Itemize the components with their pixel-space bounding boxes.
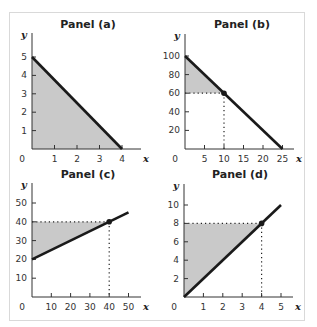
x-tick-label: 20	[65, 302, 77, 312]
x-tick-label: 40	[103, 302, 115, 312]
y-tick-label: 50	[16, 198, 28, 208]
y-axis-label: y	[173, 30, 181, 41]
data-point	[259, 221, 265, 227]
y-tick-label: 20	[16, 254, 28, 264]
x-tick-label: 4	[259, 302, 265, 312]
x-tick-label: 3	[239, 302, 245, 312]
panel-a: Panel (a)1234123450xy	[19, 18, 150, 164]
origin-label: 0	[172, 154, 178, 164]
panel-title: Panel (c)	[61, 168, 116, 181]
y-tick-label: 30	[16, 236, 28, 246]
x-axis-label: x	[295, 153, 303, 164]
x-tick-label: 3	[97, 154, 103, 164]
x-tick-label: 1	[52, 154, 58, 164]
x-tick-label: 2	[220, 302, 226, 312]
data-point	[106, 219, 112, 225]
x-tick-label: 20	[257, 154, 269, 164]
y-tick-label: 2	[173, 274, 179, 284]
x-tick-label: 10	[218, 154, 230, 164]
data-point	[221, 90, 227, 96]
panel-b: Panel (b)510152025204060801000xy	[163, 18, 303, 164]
y-tick-label: 1	[21, 126, 27, 136]
data-line	[185, 56, 283, 149]
x-tick-label: 25	[277, 154, 288, 164]
y-tick-label: 6	[173, 237, 179, 247]
panel-title: Panel (d)	[212, 168, 268, 181]
y-tick-label: 4	[173, 255, 179, 265]
panel-d: Panel (d)123452468100xy	[168, 168, 302, 312]
four-panel-chart: Panel (a)1234123450xyPanel (b)5101520252…	[0, 0, 317, 327]
y-tick-label: 40	[16, 217, 28, 227]
x-axis-label: x	[142, 301, 150, 312]
x-tick-label: 4	[119, 154, 125, 164]
y-tick-label: 3	[21, 89, 27, 99]
origin-label: 0	[19, 302, 25, 312]
y-tick-label: 10	[16, 273, 28, 283]
y-axis-label: y	[20, 29, 28, 40]
y-tick-label: 4	[21, 70, 27, 80]
x-tick-label: 50	[123, 302, 135, 312]
x-tick-label: 2	[74, 154, 80, 164]
x-tick-label: 5	[278, 302, 284, 312]
y-tick-label: 60	[169, 88, 181, 98]
y-axis-label: y	[172, 180, 180, 191]
y-tick-label: 20	[169, 125, 181, 135]
x-axis-label: x	[142, 153, 150, 164]
origin-label: 0	[19, 154, 25, 164]
y-axis-label: y	[20, 179, 28, 190]
x-tick-label: 30	[84, 302, 96, 312]
y-tick-label: 2	[21, 107, 27, 117]
x-tick-label: 15	[238, 154, 249, 164]
y-tick-label: 40	[169, 107, 181, 117]
y-tick-label: 100	[163, 51, 180, 61]
y-tick-label: 8	[173, 218, 179, 228]
panel-title: Panel (b)	[214, 18, 270, 31]
y-tick-label: 10	[168, 200, 180, 210]
origin-label: 0	[171, 302, 177, 312]
x-tick-label: 1	[201, 302, 207, 312]
x-tick-label: 10	[46, 302, 58, 312]
panel-title: Panel (a)	[60, 18, 116, 31]
x-tick-label: 5	[202, 154, 208, 164]
y-tick-label: 5	[21, 52, 27, 62]
x-axis-label: x	[294, 301, 302, 312]
panel-c: Panel (c)102030405010203040500xy	[16, 168, 150, 312]
y-tick-label: 80	[169, 70, 181, 80]
